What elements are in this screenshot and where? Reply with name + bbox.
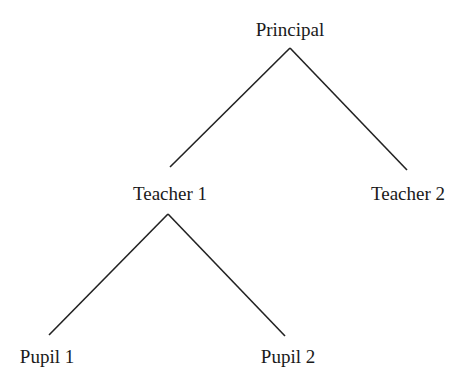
node-pupil-1: Pupil 1 <box>20 347 74 366</box>
edge-principal-teacher1 <box>170 48 290 167</box>
node-teacher-1: Teacher 1 <box>133 184 207 203</box>
edge-teacher1-pupil2 <box>168 214 285 336</box>
node-pupil-2: Pupil 2 <box>261 347 315 366</box>
edge-teacher1-pupil1 <box>49 214 168 335</box>
node-principal: Principal <box>256 20 325 39</box>
edge-principal-teacher2 <box>290 48 407 170</box>
node-teacher-2: Teacher 2 <box>371 184 445 203</box>
